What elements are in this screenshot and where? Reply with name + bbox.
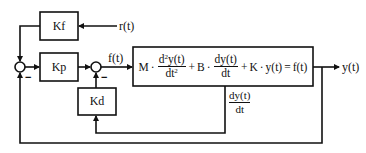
summing-junction-2 bbox=[91, 62, 101, 72]
kd-label: Kd bbox=[78, 88, 116, 115]
kp-label: Kp bbox=[40, 53, 78, 81]
junction-2-minus-sign: − bbox=[101, 72, 107, 83]
kf-label: Kf bbox=[40, 12, 78, 40]
velocity-signal-label: dy(t) dt bbox=[229, 90, 250, 115]
second-derivative-fraction: d2y(t) dt2 bbox=[158, 54, 186, 80]
output-signal-label: y(t) bbox=[342, 61, 359, 73]
junction-1-minus-sign: − bbox=[25, 72, 31, 83]
mass-coef: M bbox=[139, 61, 149, 73]
force-signal-label: f(t) bbox=[108, 52, 123, 64]
summing-junction-1 bbox=[15, 62, 25, 72]
damping-coef: B bbox=[197, 61, 205, 73]
reference-signal-label: r(t) bbox=[119, 20, 134, 32]
stiffness-coef: K bbox=[249, 61, 257, 73]
first-derivative-fraction: dy(t) dt bbox=[214, 54, 238, 80]
plant-equation: M· d2y(t) dt2 + B· dy(t) dt + K· y(t) = … bbox=[134, 48, 312, 85]
